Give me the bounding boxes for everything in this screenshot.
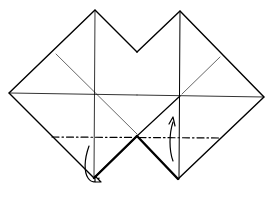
right-inner-edge xyxy=(137,96,180,136)
right-horizontal-crease xyxy=(137,95,264,97)
arrow-right-icon xyxy=(170,122,173,161)
left-square-bottom-right-edge xyxy=(94,136,137,178)
arrow-left-head-icon xyxy=(95,176,101,182)
right-diagonal-crease xyxy=(182,57,220,94)
diagram-canvas xyxy=(0,0,274,197)
left-horizontal-crease xyxy=(9,93,137,95)
origami-diagram xyxy=(0,0,274,197)
right-vertical-crease xyxy=(179,11,180,179)
